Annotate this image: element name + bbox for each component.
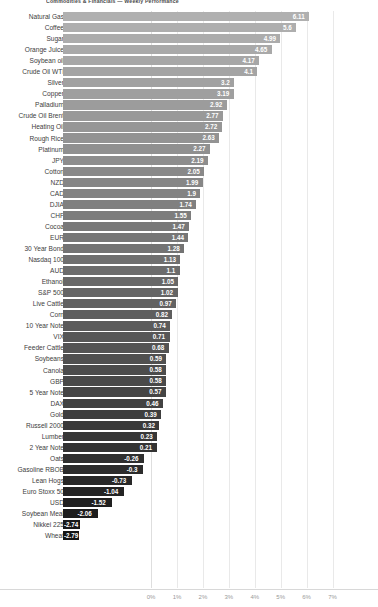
bar-value-label: 1.28 bbox=[168, 244, 180, 253]
bar-row: Oats-0.26 bbox=[0, 453, 378, 464]
bar[interactable] bbox=[63, 56, 259, 65]
plot-area: Natural Gas6.11Coffee5.6Sugar4.99Orange … bbox=[0, 11, 378, 588]
category-label: Cotton bbox=[2, 166, 64, 177]
bar-track: 4.99 bbox=[63, 34, 374, 43]
bar-value-label: 0.97 bbox=[160, 299, 172, 308]
category-label: Feeder Cattle bbox=[2, 342, 64, 353]
bar-track: -1.52 bbox=[63, 498, 374, 507]
bar[interactable] bbox=[63, 45, 272, 54]
bar-value-label: 0.39 bbox=[145, 410, 157, 419]
bar-row: Crude Oil Brent2.77 bbox=[0, 110, 378, 121]
bar-row: Coffee5.6 bbox=[0, 22, 378, 33]
bar-row: Heating Oil2.72 bbox=[0, 121, 378, 132]
bar-row: DJIA1.74 bbox=[0, 199, 378, 210]
bar-track: 3.2 bbox=[63, 78, 374, 87]
bar-track: 4.17 bbox=[63, 56, 374, 65]
bar-track: 4.1 bbox=[63, 67, 374, 76]
bar-track: 2.05 bbox=[63, 167, 374, 176]
bar[interactable] bbox=[63, 67, 257, 76]
bar-row: Ethanol1.05 bbox=[0, 276, 378, 287]
bar-value-label: 0.58 bbox=[149, 365, 161, 374]
bar[interactable] bbox=[63, 266, 180, 275]
bar[interactable] bbox=[63, 100, 227, 109]
bar-value-label: 0.74 bbox=[154, 321, 166, 330]
bar-value-label: 3.2 bbox=[221, 78, 230, 87]
bar-value-label: 1.02 bbox=[161, 288, 173, 297]
bar[interactable] bbox=[63, 89, 234, 98]
bar[interactable] bbox=[63, 211, 191, 220]
bar-value-label: 6.11 bbox=[293, 12, 305, 21]
bar-track: 1.44 bbox=[63, 233, 374, 242]
bar-track: 1.47 bbox=[63, 222, 374, 231]
bar[interactable] bbox=[63, 122, 222, 131]
bar-value-label: 0.82 bbox=[156, 310, 168, 319]
axis-tick-label: 7% bbox=[328, 594, 337, 600]
category-label: EUR bbox=[2, 232, 64, 243]
bar[interactable] bbox=[63, 156, 208, 165]
bar-value-label: 0.32 bbox=[143, 421, 155, 430]
bar-row: Cocoa1.47 bbox=[0, 221, 378, 232]
bar[interactable] bbox=[63, 34, 280, 43]
bar[interactable] bbox=[63, 133, 219, 142]
bar[interactable] bbox=[63, 23, 296, 32]
bar-value-label: 1.13 bbox=[164, 255, 176, 264]
bar-row: GBP0.58 bbox=[0, 376, 378, 387]
bar-value-label: -1.04 bbox=[104, 487, 118, 496]
bar[interactable] bbox=[63, 111, 223, 120]
bar-track: 6.11 bbox=[63, 12, 374, 21]
bar-track: -2.74 bbox=[63, 520, 374, 529]
bar-row: 10 Year Note0.74 bbox=[0, 320, 378, 331]
bar-row: Euro Stoxx 50-1.04 bbox=[0, 486, 378, 497]
bar[interactable] bbox=[63, 189, 200, 198]
bar-row: JPY2.19 bbox=[0, 155, 378, 166]
bar[interactable] bbox=[63, 78, 234, 87]
bar-value-label: 0.57 bbox=[149, 387, 161, 396]
bar-row: Platinum2.27 bbox=[0, 144, 378, 155]
bar-track: 5.6 bbox=[63, 23, 374, 32]
bar[interactable] bbox=[63, 244, 184, 253]
category-label: VIX bbox=[2, 331, 64, 342]
bar-rows: Natural Gas6.11Coffee5.6Sugar4.99Orange … bbox=[0, 11, 378, 588]
bar-value-label: 4.99 bbox=[264, 34, 276, 43]
bar[interactable] bbox=[63, 233, 188, 242]
bar-track: 2.72 bbox=[63, 122, 374, 131]
category-label: Silver bbox=[2, 77, 64, 88]
bar-value-label: 5.6 bbox=[283, 23, 292, 32]
category-label: Soybeans bbox=[2, 353, 64, 364]
category-label: Euro Stoxx 50 bbox=[2, 486, 64, 497]
bar[interactable] bbox=[63, 178, 203, 187]
bar-track: 0.23 bbox=[63, 432, 374, 441]
bar[interactable] bbox=[63, 200, 196, 209]
category-label: Natural Gas bbox=[2, 11, 64, 22]
category-label: Nikkei 225 bbox=[2, 519, 64, 530]
category-label: Ethanol bbox=[2, 276, 64, 287]
category-label: Crude Oil WTI bbox=[2, 66, 64, 77]
category-label: AUD bbox=[2, 265, 64, 276]
chart-title: Commodities & Financials — Weekly Perfor… bbox=[46, 0, 256, 6]
bar-value-label: 4.65 bbox=[255, 45, 267, 54]
bar[interactable] bbox=[63, 167, 204, 176]
category-label: 5 Year Note bbox=[2, 387, 64, 398]
bar-row: Corn0.82 bbox=[0, 309, 378, 320]
bar-row: 2 Year Note0.21 bbox=[0, 442, 378, 453]
bar-row: Rough Rice2.63 bbox=[0, 133, 378, 144]
bar-row: CHF1.55 bbox=[0, 210, 378, 221]
category-label: S&P 500 bbox=[2, 287, 64, 298]
bar[interactable] bbox=[63, 144, 210, 153]
category-label: Copper bbox=[2, 88, 64, 99]
bar-track: 1.9 bbox=[63, 189, 374, 198]
bar-track: 2.92 bbox=[63, 100, 374, 109]
bar-value-label: 0.46 bbox=[146, 399, 158, 408]
category-label: Soybean oil bbox=[2, 55, 64, 66]
bar-row: Gasoline RBOB-0.3 bbox=[0, 464, 378, 475]
bar-track: 0.71 bbox=[63, 332, 374, 341]
bar-value-label: -2.06 bbox=[77, 509, 91, 518]
category-label: Oats bbox=[2, 453, 64, 464]
bar-value-label: 1.9 bbox=[187, 189, 196, 198]
bar[interactable] bbox=[63, 222, 189, 231]
bar[interactable] bbox=[63, 12, 309, 21]
category-label: Platinum bbox=[2, 144, 64, 155]
axis-tick-label: 2% bbox=[199, 594, 208, 600]
bar-value-label: 0.71 bbox=[153, 332, 165, 341]
bar-track: 0.68 bbox=[63, 343, 374, 352]
